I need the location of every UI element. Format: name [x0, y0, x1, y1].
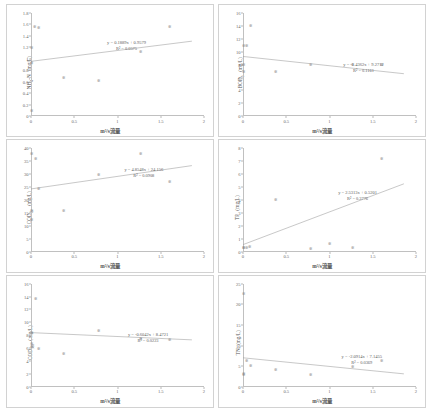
r-squared-text: R² = 0.1161: [343, 68, 383, 74]
chart-panel-codmn: CODMn（mg/L）m³/s流量024681012141600.511.52y…: [6, 275, 214, 408]
x-tick-mark: [286, 387, 287, 389]
x-tick-mark: [286, 116, 287, 118]
data-point: [274, 198, 277, 201]
x-tick-mark: [416, 116, 417, 118]
data-point: [245, 44, 248, 47]
data-point: [328, 242, 331, 245]
y-tick-label: 14: [236, 23, 241, 28]
x-tick-label: 0: [242, 119, 244, 124]
y-tick-label: 0.8: [23, 68, 29, 73]
y-tick-label: 0.4: [23, 91, 29, 96]
data-point: [97, 329, 100, 332]
r-squared-text: R² = 0.0908: [124, 173, 163, 179]
x-tick-label: 1: [328, 389, 330, 394]
data-point: [309, 63, 312, 66]
data-point: [168, 338, 171, 341]
r-squared-text: R² = 0.0223: [128, 338, 168, 344]
y-tick-label: 15: [236, 322, 241, 327]
axis-area-cod: 051015202530354000.511.52y = 4.8548x + 2…: [31, 148, 204, 251]
x-axis-label-tn: m³/s流量: [219, 397, 425, 405]
trendline-tn: [243, 284, 416, 387]
x-tick-label: 0: [30, 389, 32, 394]
chart-panel-bod5: BOD5（mg/L）m³/s流量024681012141600.511.52y …: [218, 4, 426, 137]
chart-panel-cod: CODCr（mg/L）m³/s流量051015202530354000.511.…: [6, 139, 214, 272]
x-tick-label: 1: [116, 254, 118, 259]
x-tick-label: 1.5: [370, 254, 376, 259]
data-point: [62, 209, 65, 212]
data-point: [97, 173, 100, 176]
data-point: [33, 25, 36, 28]
chart-panel-tp: TP（mg/L）m³/s流量01234567800.511.52y = 2.53…: [218, 139, 426, 272]
x-axis-label-bod5: m³/s流量: [219, 127, 425, 135]
x-tick-mark: [286, 252, 287, 254]
y-tick-label: 30: [24, 172, 29, 177]
r-squared-text: R² = 0.0369: [342, 360, 382, 366]
y-tick-label: 16: [236, 11, 241, 16]
y-tick-label: 0.6: [23, 79, 29, 84]
x-tick-label: 0.5: [71, 254, 77, 259]
y-tick-label: 20: [24, 197, 29, 202]
data-point: [242, 63, 245, 66]
y-tick-label: 12: [24, 307, 29, 312]
x-tick-mark: [204, 252, 205, 254]
x-tick-label: 0.5: [283, 254, 289, 259]
y-tick-label: 25: [236, 281, 241, 286]
data-point: [380, 157, 383, 160]
axis-area-codmn: 024681012141600.511.52y = -0.6042x + 8.4…: [31, 284, 204, 387]
data-point: [37, 26, 40, 29]
data-point: [245, 359, 248, 362]
x-tick-mark: [74, 387, 75, 389]
axis-area-tp: 01234567800.511.52y = 2.5313x + 0.5201R²…: [243, 148, 416, 251]
x-tick-mark: [329, 116, 330, 118]
x-tick-mark: [160, 387, 161, 389]
x-tick-label: 1: [116, 119, 118, 124]
x-tick-label: 1: [328, 119, 330, 124]
x-tick-mark: [416, 387, 417, 389]
x-tick-label: 0.5: [71, 119, 77, 124]
y-tick-label: 35: [24, 159, 29, 164]
x-tick-label: 2: [203, 119, 205, 124]
data-point: [168, 25, 171, 28]
y-tick-label: 40: [24, 146, 29, 151]
x-tick-label: 1.5: [370, 389, 376, 394]
y-axis-label-tn: TN（mg/L）: [234, 327, 241, 356]
r-squared-text: R² = 0.0575: [107, 46, 146, 52]
equation-text: y = 4.8548x + 24.156: [124, 167, 163, 172]
x-tick-label: 0: [30, 119, 32, 124]
regression-equation-tp: y = 2.5313x + 0.5201R² = 0.3776: [338, 190, 377, 202]
x-tick-mark: [117, 116, 118, 118]
y-tick-label: 10: [236, 343, 241, 348]
x-tick-mark: [204, 116, 205, 118]
data-point: [351, 246, 354, 249]
x-tick-mark: [74, 252, 75, 254]
x-axis-label-nh4n: m³/s流量: [7, 127, 213, 135]
regression-equation-bod5: y = -1.4362x + 9.2712R² = 0.1161: [343, 62, 383, 74]
x-tick-mark: [372, 252, 373, 254]
plot-area-cod: CODCr（mg/L）m³/s流量051015202530354000.511.…: [7, 140, 213, 271]
y-tick-label: 10: [24, 223, 29, 228]
x-tick-mark: [416, 252, 417, 254]
x-tick-label: 0.5: [283, 389, 289, 394]
data-point: [139, 152, 142, 155]
trendline-codmn: [31, 284, 204, 387]
data-point: [30, 61, 33, 64]
x-tick-mark: [243, 387, 244, 389]
data-point: [34, 157, 37, 160]
x-tick-label: 0: [30, 254, 32, 259]
y-tick-label: 1.2: [23, 45, 29, 50]
x-tick-label: 1: [328, 254, 330, 259]
equation-text: y = -2.0914x + 7.1455: [342, 354, 382, 359]
r-squared-text: R² = 0.3776: [338, 196, 377, 202]
plot-area-nh4n: NH4-N（mg/L）m³/s流量00.20.40.60.811.21.41.6…: [7, 5, 213, 136]
equation-text: y = 2.5313x + 0.5201: [338, 190, 377, 195]
data-point: [62, 76, 65, 79]
x-tick-label: 0: [242, 389, 244, 394]
x-tick-mark: [243, 252, 244, 254]
data-point: [30, 152, 33, 155]
x-axis-label-codmn: m³/s流量: [7, 397, 213, 405]
x-tick-label: 2: [203, 389, 205, 394]
x-tick-label: 2: [415, 389, 417, 394]
y-tick-label: 10: [24, 320, 29, 325]
data-point: [30, 109, 33, 112]
y-axis-label-tp: TP（mg/L）: [233, 192, 240, 220]
